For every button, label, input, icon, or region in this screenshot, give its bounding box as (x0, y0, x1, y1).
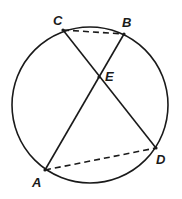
label-b: B (122, 15, 131, 30)
chord-ab (45, 34, 124, 170)
label-e: E (105, 69, 114, 84)
label-c: C (53, 13, 63, 28)
geometry-diagram: C B E D A (0, 0, 182, 199)
point-c (61, 28, 64, 31)
label-a: A (31, 175, 41, 190)
label-d: D (156, 152, 166, 167)
point-e (97, 75, 100, 78)
dashed-segment-ad (45, 148, 156, 170)
point-b (122, 32, 125, 35)
point-a (43, 168, 46, 171)
point-d (154, 146, 157, 149)
circle (12, 27, 168, 183)
